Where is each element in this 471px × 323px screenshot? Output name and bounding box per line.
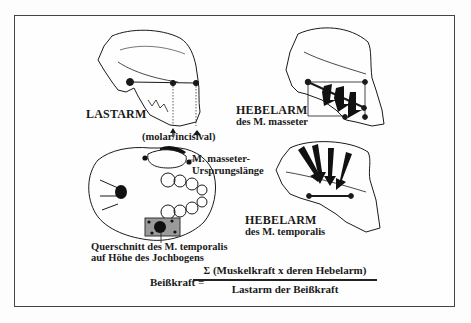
formula-numerator: Σ (Muskelkraft x deren Hebelarm) <box>193 264 377 278</box>
lastarm-label: LASTARM <box>86 108 147 120</box>
formula-fraction: Σ (Muskelkraft x deren Hebelarm) Lastarm… <box>193 264 377 295</box>
masseter-origin-label-1: M. masseter- <box>192 154 250 165</box>
formula-denominator: Lastarm der Beißkraft <box>193 283 377 295</box>
numerator-text: (Muskelkraft x deren Hebelarm) <box>213 264 366 276</box>
masseter-origin-label-2: Ursprungslänge <box>192 166 264 177</box>
hebelarm-temporalis-title: HEBELARM <box>245 214 317 226</box>
hebelarm-temporalis-subtitle: des M. temporalis <box>245 227 325 238</box>
hebelarm-masseter-title: HEBELARM <box>236 104 308 116</box>
sigma-icon: Σ <box>204 265 211 276</box>
temporalis-lever-line <box>307 194 354 199</box>
cross-section-label-2: auf Höhe des Jochbogens <box>91 253 204 264</box>
temporalis-force-arrows-icon <box>298 144 352 190</box>
cross-section-label-1: Querschnitt des M. temporalis <box>91 242 228 253</box>
masseter-force-arrows-icon <box>322 84 362 118</box>
fraction-bar <box>193 279 377 281</box>
hebelarm-masseter-subtitle: des M. masseter <box>236 117 308 128</box>
molar-incisival-label: (molar/incisival) <box>142 132 216 143</box>
